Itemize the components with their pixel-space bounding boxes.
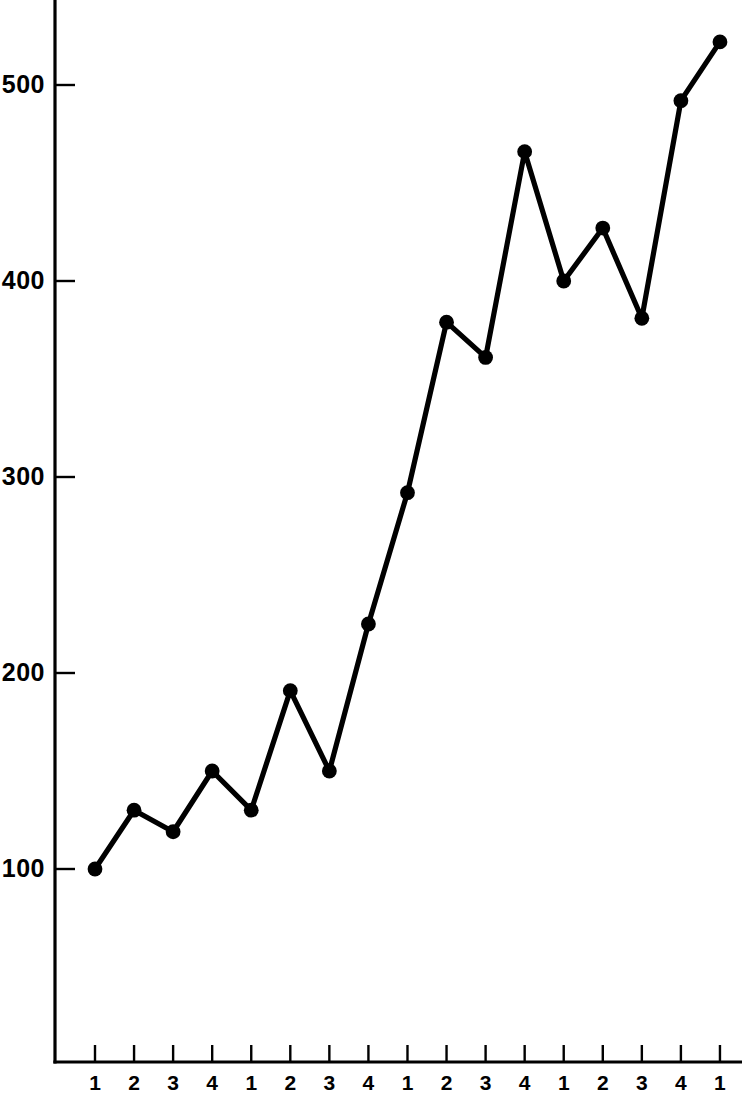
data-point: 2: 191 bbox=[283, 683, 298, 698]
x-tick-label: 3 bbox=[636, 1071, 648, 1094]
y-tick-labels: 100200300400500 bbox=[2, 70, 45, 882]
x-tick-label: 1 bbox=[714, 1071, 726, 1094]
x-tick-label: 1 bbox=[89, 1071, 101, 1094]
data-series: 1: 1002: 1303: 1194: 1501: 1302: 1913: 1… bbox=[88, 34, 728, 876]
x-tick-label: 2 bbox=[597, 1071, 609, 1094]
data-point: 4: 225 bbox=[361, 617, 376, 632]
x-axis bbox=[53, 1045, 742, 1062]
data-point: 2: 427 bbox=[595, 221, 610, 236]
y-tick-label: 200 bbox=[2, 658, 45, 686]
x-tick-label: 3 bbox=[324, 1071, 336, 1094]
x-tick-label: 1 bbox=[245, 1071, 257, 1094]
x-tick-label: 4 bbox=[519, 1071, 531, 1094]
x-tick-labels: 12341234123412341 bbox=[89, 1071, 726, 1094]
x-tick-label: 2 bbox=[441, 1071, 453, 1094]
series-line bbox=[95, 42, 720, 869]
data-point: 4: 492 bbox=[674, 93, 689, 108]
x-tick-label: 3 bbox=[480, 1071, 492, 1094]
data-point: 3: 361 bbox=[478, 350, 493, 365]
data-point: 1: 522 bbox=[713, 34, 728, 49]
y-tick-label: 400 bbox=[2, 266, 45, 294]
y-tick-label: 100 bbox=[2, 854, 45, 882]
y-tick-label: 300 bbox=[2, 462, 45, 490]
data-point: 4: 466 bbox=[517, 144, 532, 159]
y-axis bbox=[55, 0, 75, 1064]
x-tick-label: 4 bbox=[675, 1071, 687, 1094]
data-point: 2: 130 bbox=[127, 803, 142, 818]
data-point: 2: 379 bbox=[439, 315, 454, 330]
x-tick-label: 2 bbox=[284, 1071, 296, 1094]
line-chart: 1: 1002: 1303: 1194: 1501: 1302: 1913: 1… bbox=[0, 0, 750, 1110]
x-tick-label: 2 bbox=[128, 1071, 140, 1094]
data-point: 4: 150 bbox=[205, 764, 220, 779]
data-point: 1: 100 bbox=[88, 862, 103, 877]
data-point: 1: 400 bbox=[556, 274, 571, 289]
x-tick-label: 1 bbox=[402, 1071, 414, 1094]
data-point: 3: 381 bbox=[634, 311, 649, 326]
data-point: 1: 292 bbox=[400, 485, 415, 500]
data-point: 3: 119 bbox=[166, 824, 181, 839]
chart-canvas: 1: 1002: 1303: 1194: 1501: 1302: 1913: 1… bbox=[0, 0, 750, 1110]
x-tick-label: 4 bbox=[363, 1071, 375, 1094]
y-tick-label: 500 bbox=[2, 70, 45, 98]
data-point: 3: 150 bbox=[322, 764, 337, 779]
data-point: 1: 130 bbox=[244, 803, 259, 818]
x-tick-label: 1 bbox=[558, 1071, 570, 1094]
x-tick-label: 4 bbox=[206, 1071, 218, 1094]
x-tick-label: 3 bbox=[167, 1071, 179, 1094]
